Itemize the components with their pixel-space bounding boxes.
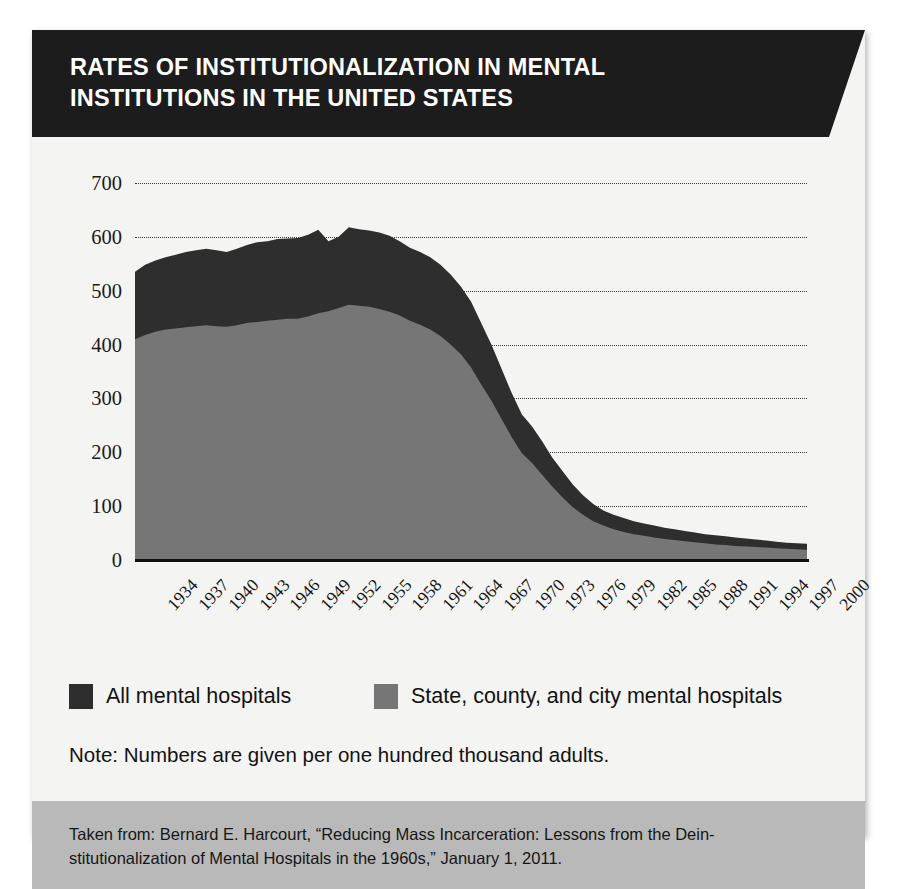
source-citation: Taken from: Bernard E. Harcourt, “Reduci… bbox=[69, 823, 824, 871]
legend-item-state-county-city: State, county, and city mental hospitals bbox=[374, 679, 782, 713]
y-tick-label-0: 0 bbox=[54, 549, 122, 572]
x-tick-label-1940: 1940 bbox=[224, 575, 263, 615]
x-tick-label-2000: 2000 bbox=[835, 575, 874, 615]
x-tick-label-1973: 1973 bbox=[560, 575, 599, 615]
x-tick-label-1937: 1937 bbox=[194, 575, 233, 615]
x-tick-label-1994: 1994 bbox=[774, 575, 813, 615]
y-tick-label-500: 500 bbox=[54, 279, 122, 302]
x-tick-label-1982: 1982 bbox=[652, 575, 691, 615]
x-tick-label-1964: 1964 bbox=[469, 575, 508, 615]
x-tick-label-1997: 1997 bbox=[805, 575, 844, 615]
chart-note: Note: Numbers are given per one hundred … bbox=[69, 743, 609, 767]
x-tick-label-1943: 1943 bbox=[255, 575, 294, 615]
area-series-svg bbox=[135, 183, 807, 560]
x-tick-label-1958: 1958 bbox=[407, 575, 446, 615]
source-bar: Taken from: Bernard E. Harcourt, “Reduci… bbox=[32, 801, 865, 889]
x-tick-label-1934: 1934 bbox=[163, 575, 202, 615]
x-tick-label-1970: 1970 bbox=[530, 575, 569, 615]
x-tick-label-1985: 1985 bbox=[682, 575, 721, 615]
y-tick-label-100: 100 bbox=[54, 495, 122, 518]
chart-legend: All mental hospitals State, county, and … bbox=[69, 679, 829, 713]
y-tick-label-400: 400 bbox=[54, 333, 122, 356]
plot-area bbox=[135, 183, 807, 560]
legend-item-all-mental-hospitals: All mental hospitals bbox=[69, 679, 291, 713]
legend-swatch-icon-state bbox=[374, 684, 398, 709]
title-line-1: Rates of institutionalization in mental bbox=[70, 52, 770, 83]
legend-label-all: All mental hospitals bbox=[106, 684, 291, 709]
x-axis-tick-labels: 1934193719401943194619491952195519581961… bbox=[135, 565, 807, 655]
y-tick-label-200: 200 bbox=[54, 441, 122, 464]
x-tick-label-1946: 1946 bbox=[285, 575, 324, 615]
x-tick-label-1949: 1949 bbox=[316, 575, 355, 615]
x-tick-label-1955: 1955 bbox=[377, 575, 416, 615]
legend-label-state: State, county, and city mental hospitals bbox=[411, 684, 782, 709]
x-tick-label-1952: 1952 bbox=[346, 575, 385, 615]
x-axis-baseline bbox=[135, 559, 809, 562]
legend-swatch-icon-all bbox=[69, 684, 93, 709]
page-title: Rates of institutionalization in mental … bbox=[70, 52, 770, 113]
title-line-2: institutions in the United States bbox=[70, 83, 770, 114]
y-tick-label-700: 700 bbox=[54, 172, 122, 195]
y-tick-label-600: 600 bbox=[54, 225, 122, 248]
x-tick-label-1988: 1988 bbox=[713, 575, 752, 615]
chart-figure: Rates of institutionalization in mental … bbox=[32, 30, 865, 836]
x-tick-label-1967: 1967 bbox=[499, 575, 538, 615]
chart-plot-region: 0100200300400500600700 19341937194019431… bbox=[32, 137, 865, 836]
y-tick-label-300: 300 bbox=[54, 387, 122, 410]
x-tick-label-1991: 1991 bbox=[743, 575, 782, 615]
x-tick-label-1979: 1979 bbox=[621, 575, 660, 615]
x-tick-label-1976: 1976 bbox=[591, 575, 630, 615]
x-tick-label-1961: 1961 bbox=[438, 575, 477, 615]
